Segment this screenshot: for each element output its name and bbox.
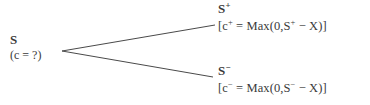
up-state-superscript: + [225, 0, 230, 10]
down-equals-sign: = [233, 81, 247, 95]
up-state-label: S+ [218, 2, 327, 17]
root-value-label: (c = ?) [10, 49, 41, 63]
down-state-node: S− [c− = Max(0,S− − X)] [218, 64, 327, 95]
down-s-base: S [284, 81, 291, 95]
up-branch-line [62, 25, 215, 51]
root-node: S (c = ?) [10, 33, 41, 63]
up-close-bracket: ] [322, 19, 326, 33]
root-symbol: S [10, 33, 41, 48]
up-max-function: Max [246, 19, 269, 33]
down-close-bracket: ] [322, 81, 326, 95]
down-state-superscript: − [225, 62, 230, 72]
down-branch-line [62, 51, 213, 77]
up-state-node: S+ [c+ = Max(0,S+ − X)] [218, 2, 327, 33]
down-minus-sign: − [295, 81, 309, 95]
down-zero-argument: 0, [274, 81, 284, 95]
up-minus-sign: − [295, 19, 309, 33]
binomial-tree-diagram: S (c = ?) S+ [c+ = Max(0,S+ − X)] S− [c−… [0, 0, 370, 105]
up-payoff-expression: [c+ = Max(0,S+ − X)] [218, 19, 327, 33]
up-zero-argument: 0, [274, 19, 284, 33]
up-strike-symbol: X [309, 19, 318, 33]
up-equals-sign: = [233, 19, 247, 33]
down-state-label: S− [218, 64, 327, 79]
down-strike-symbol: X [309, 81, 318, 95]
down-payoff-expression: [c− = Max(0,S− − X)] [218, 81, 327, 95]
up-s-base: S [284, 19, 291, 33]
down-max-function: Max [246, 81, 269, 95]
